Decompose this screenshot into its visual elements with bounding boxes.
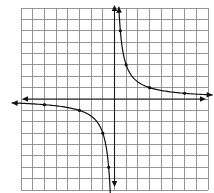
y-axis-down-arrow-icon xyxy=(112,181,118,187)
data-point xyxy=(183,92,186,95)
coordinate-axes xyxy=(22,5,206,187)
hyperbola-branch-lower-left xyxy=(12,103,111,193)
curve-start-arrow-icon xyxy=(12,100,18,106)
data-point xyxy=(148,86,151,89)
hyperbola-branch-upper-right xyxy=(119,7,213,95)
x-axis-left-arrow-icon xyxy=(22,96,28,102)
function-curves xyxy=(12,7,213,193)
x-axis-right-arrow-icon xyxy=(200,96,206,102)
hyperbola-graph xyxy=(0,0,214,193)
data-point xyxy=(43,103,46,106)
data-point xyxy=(125,63,128,66)
curve-end-arrow-icon xyxy=(207,92,213,98)
data-point xyxy=(119,29,122,32)
data-point xyxy=(78,109,81,112)
data-point xyxy=(101,132,104,135)
data-point xyxy=(107,166,110,169)
